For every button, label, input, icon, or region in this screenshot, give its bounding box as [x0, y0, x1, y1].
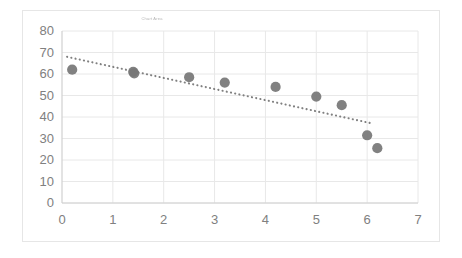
y-axis-tick-label: 80 [28, 24, 54, 37]
x-axis-tick-label: 7 [407, 213, 429, 226]
x-axis-tick-label: 2 [153, 213, 175, 226]
data-point-marker [372, 143, 382, 153]
y-axis-tick-label: 0 [28, 196, 54, 209]
data-points [67, 65, 382, 154]
gridlines [62, 31, 418, 203]
x-axis-tick-label: 5 [305, 213, 327, 226]
data-point-marker [129, 68, 139, 78]
chart-container: Chart Area 0102030405060708001234567 [0, 0, 462, 258]
data-point-marker [184, 72, 194, 82]
data-point-marker [362, 130, 372, 140]
x-axis-tick-label: 0 [51, 213, 73, 226]
y-axis-tick-label: 30 [28, 132, 54, 145]
data-point-marker [220, 78, 230, 88]
data-point-marker [271, 82, 281, 92]
y-axis-tick-label: 40 [28, 110, 54, 123]
x-axis-tick-label: 6 [356, 213, 378, 226]
x-axis-tick-label: 3 [204, 213, 226, 226]
data-point-marker [337, 100, 347, 110]
y-axis-tick-label: 20 [28, 153, 54, 166]
y-axis-tick-label: 50 [28, 89, 54, 102]
y-axis-tick-label: 70 [28, 46, 54, 59]
x-axis-tick-label: 1 [102, 213, 124, 226]
data-point-marker [311, 91, 321, 101]
y-axis-tick-label: 60 [28, 67, 54, 80]
x-axis-tick-label: 4 [254, 213, 276, 226]
data-point-marker [67, 65, 77, 75]
y-axis-tick-label: 10 [28, 175, 54, 188]
